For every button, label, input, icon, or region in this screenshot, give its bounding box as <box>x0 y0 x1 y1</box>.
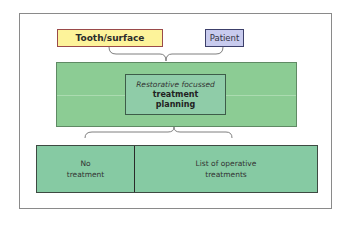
patient-box: Patient <box>205 29 244 47</box>
treatment-planning-box: Restorative focussed treatment planning <box>125 74 226 115</box>
center-line-1: Restorative focussed <box>136 80 215 90</box>
tooth-surface-box: Tooth/surface <box>57 29 163 47</box>
no-treatment-cell: No treatment <box>37 146 135 192</box>
tooth-surface-label: Tooth/surface <box>76 33 145 43</box>
no-treatment-line-1: No <box>80 158 90 169</box>
center-line-3: planning <box>156 100 195 110</box>
outcomes-box: No treatment List of operative treatment… <box>36 145 318 193</box>
operative-line-2: treatments <box>205 169 247 180</box>
operative-line-1: List of operative <box>196 158 257 169</box>
center-line-2: treatment <box>153 90 199 100</box>
patient-label: Patient <box>210 33 240 43</box>
operative-treatments-cell: List of operative treatments <box>135 146 317 192</box>
no-treatment-line-2: treatment <box>67 169 105 180</box>
